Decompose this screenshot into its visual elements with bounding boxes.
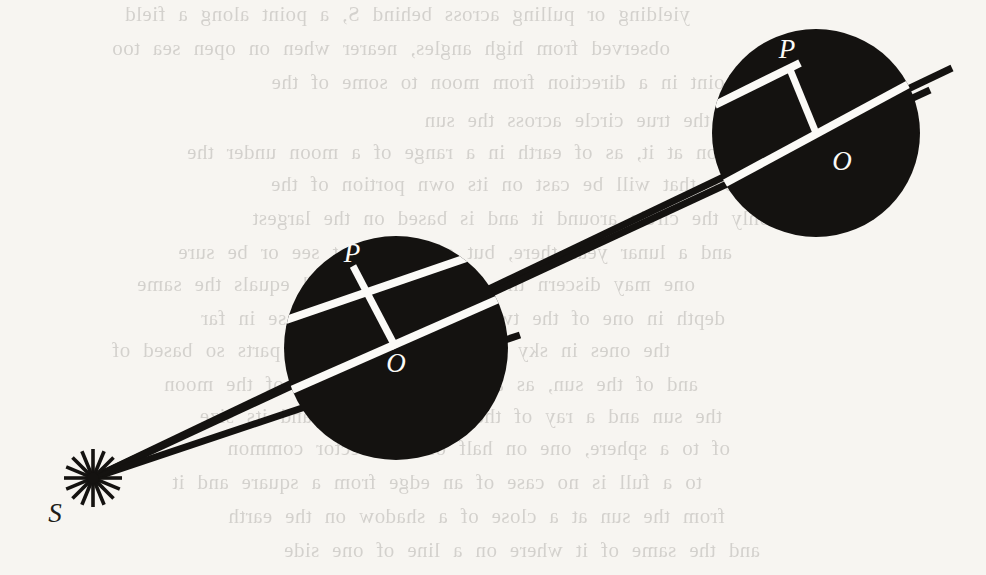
label-P-right: P <box>778 34 796 64</box>
figure-canvas: yielding or pulling across behind S, a p… <box>0 0 986 575</box>
diagram-svg: SPOPO <box>0 0 986 575</box>
light-source-point <box>88 473 99 484</box>
label-O-right: O <box>832 146 852 176</box>
light-source-starburst <box>64 449 122 507</box>
label-O-left: O <box>386 348 406 378</box>
label-S: S <box>48 498 62 528</box>
label-P-left: P <box>343 238 361 268</box>
